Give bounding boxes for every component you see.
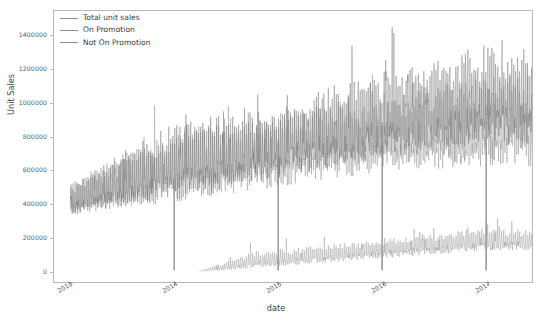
legend-item-on-promotion[interactable]: On Promotion	[60, 25, 151, 35]
legend-label: Not On Promotion	[83, 38, 151, 48]
legend-item-total-unit-sales[interactable]: Total unit sales	[60, 13, 151, 23]
chart-figure: Unit Sales 02000004000006000008000001000…	[0, 0, 552, 328]
series-on-promotion	[200, 218, 532, 271]
legend-item-not-on-promotion[interactable]: Not On Promotion	[60, 38, 151, 48]
y-axis-tick-label: 400000	[0, 200, 47, 207]
y-axis-tick-label: 600000	[0, 166, 47, 173]
series-line	[200, 218, 532, 271]
y-axis-tick-label: 200000	[0, 234, 47, 241]
plot-area	[53, 10, 533, 283]
chart-legend: Total unit sales On Promotion Not On Pro…	[60, 13, 151, 48]
y-axis-label: Unit Sales	[6, 74, 16, 115]
legend-label: On Promotion	[83, 25, 135, 35]
legend-label: Total unit sales	[83, 13, 140, 23]
y-axis-tick-label: 800000	[0, 133, 47, 140]
legend-line-icon	[60, 30, 78, 31]
y-axis-tick-label: 0	[0, 268, 47, 275]
y-axis-tick-label: 1000000	[0, 99, 47, 106]
y-axis-tick-label: 1400000	[0, 31, 47, 38]
legend-line-icon	[60, 18, 78, 19]
legend-line-icon	[60, 42, 78, 43]
x-axis-label: date	[0, 303, 552, 313]
series-canvas	[54, 11, 532, 282]
y-axis-tick-label: 1200000	[0, 65, 47, 72]
